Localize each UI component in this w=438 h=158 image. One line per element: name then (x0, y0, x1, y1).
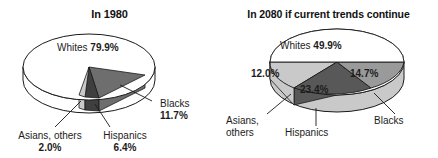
label-asians-name-2080: Asians, others (226, 115, 259, 138)
label-whites-pct-1980: 79.9% (90, 42, 118, 53)
label-blacks-pct-2080: 14.7% (350, 68, 378, 80)
label-hispanics-1980: Hispanics 6.4% (92, 130, 158, 153)
label-asians-name-line2-2080: others (226, 127, 259, 139)
label-asians-name-line1-2080: Asians, (226, 115, 259, 127)
label-asians-1980: Asians, others 2.0% (8, 130, 92, 153)
label-blacks-name-1980: Blacks (160, 98, 189, 110)
label-whites-name-2080: Whites (280, 40, 311, 51)
label-hispanics-pct-2080: 23.4% (300, 84, 328, 96)
chart-panel-2080: In 2080 if current trends continue (219, 0, 438, 158)
label-whites-1980: Whites 79.9% (57, 42, 119, 54)
chart-panel-1980: In 1980 (0, 0, 219, 158)
label-asians-pct-2080: 12.0% (251, 68, 279, 80)
label-whites-pct-2080: 49.9% (313, 40, 341, 51)
label-blacks-1980: Blacks 11.7% (160, 98, 189, 121)
pie-top-face-2080 (270, 29, 404, 95)
label-hispanics-name-2080: Hispanics (285, 127, 328, 139)
label-blacks-pct-1980: 11.7% (160, 110, 189, 122)
label-blacks-name-2080: Blacks (374, 115, 403, 127)
label-hispanics-pct-1980: 6.4% (92, 142, 158, 154)
label-asians-name-1980: Asians, others (8, 130, 92, 142)
label-hispanics-name-1980: Hispanics (92, 130, 158, 142)
label-whites-2080: Whites 49.9% (280, 40, 342, 52)
label-whites-name-1980: Whites (57, 42, 88, 53)
label-asians-pct-1980: 2.0% (8, 142, 92, 154)
two-pie-chart-figure: In 1980 (0, 0, 438, 158)
